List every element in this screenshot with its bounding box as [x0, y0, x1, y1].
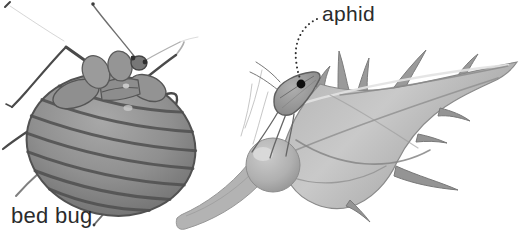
- aphid-leader-dot: [297, 80, 306, 89]
- aphid-sketch-hairs: [241, 70, 268, 144]
- aphid-leader-line: [296, 19, 317, 78]
- bed-bug-highlight: [123, 84, 129, 89]
- bed-bug-eye-right: [143, 60, 148, 65]
- illustration-panel: bed bug aphid: [0, 0, 525, 243]
- rosebud-receptacle-highlight: [253, 147, 273, 161]
- rosebud-receptacle: [246, 138, 300, 192]
- bed-bug-illustration: [3, 2, 209, 231]
- rosebud-illustration: [176, 50, 517, 229]
- bed-bug-antennae: [5, 2, 198, 60]
- bed-bug-highlight-2: [124, 105, 133, 111]
- bed-bug-label: bed bug: [11, 203, 93, 229]
- aphid-label: aphid: [322, 2, 375, 26]
- aphid-antennae: [250, 62, 280, 90]
- bed-bug-eye-left: [131, 56, 136, 61]
